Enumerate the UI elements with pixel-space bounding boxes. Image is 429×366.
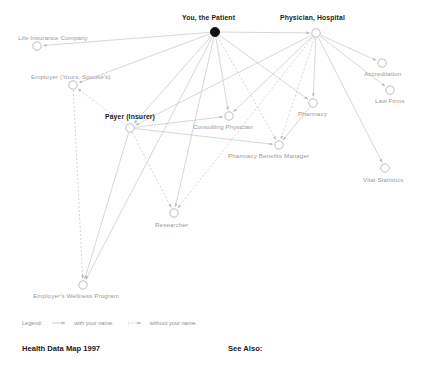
graph-node-accreditation[interactable] (378, 59, 386, 67)
graph-node-law-firms[interactable] (386, 86, 394, 94)
node-label-vital-statistics: Vital Statistics (363, 177, 403, 183)
graph-node-payer[interactable] (126, 124, 134, 132)
legend-solid-swatch (52, 320, 70, 326)
page-title: Health Data Map 1997 (22, 344, 100, 353)
nodes-group (33, 27, 394, 289)
node-label-pbm: Pharmacy Benefits Manager (228, 153, 309, 159)
node-label-employer: Employer (Yours, Spouse's) (31, 74, 111, 80)
graph-edge (318, 37, 382, 162)
graph-node-life-insurance[interactable] (33, 42, 41, 50)
node-label-researcher: Researcher (155, 222, 188, 228)
graph-edge (216, 37, 228, 110)
legend-dashed-text: without your name. (150, 320, 197, 326)
see-also-label: See Also: (228, 344, 262, 353)
graph-node-researcher[interactable] (170, 209, 178, 217)
legend-label: Legend: (22, 320, 42, 326)
graph-node-employer[interactable] (69, 81, 77, 89)
graph-node-consulting[interactable] (225, 112, 233, 120)
graph-node-patient[interactable] (210, 27, 219, 36)
graph-node-pbm[interactable] (275, 141, 283, 149)
graph-edge (234, 36, 313, 111)
legend-solid-text: with your name. (74, 320, 113, 326)
graph-edge (321, 35, 377, 60)
graph-edge (313, 38, 316, 97)
node-label-physician: Physician, Hospital (280, 15, 345, 22)
graph-edge (85, 133, 129, 279)
legend: Legend: with your name. without your nam… (22, 320, 211, 326)
graph-edge (320, 36, 385, 86)
node-label-accreditation: Accreditation (364, 71, 401, 77)
node-label-life-insurance: Life Insurance Company (18, 35, 88, 41)
edges-group (43, 32, 385, 279)
legend-dashed-swatch (128, 320, 146, 326)
graph-edge (135, 129, 273, 145)
graph-edge (132, 132, 171, 207)
graph-edge (220, 32, 310, 33)
node-label-payer: Payer (Insurer) (105, 114, 155, 121)
node-label-patient: You, the Patient (182, 15, 235, 22)
graph-node-vital-statistics[interactable] (381, 164, 389, 172)
graph-node-physician[interactable] (312, 29, 320, 37)
graph-edge (281, 38, 314, 139)
graph-edge (134, 36, 211, 123)
node-label-law-firms: Law Firms (375, 98, 405, 104)
health-data-map-diagram: You, the PatientPhysician, HospitalLife … (0, 0, 429, 366)
graph-node-pharmacy[interactable] (309, 99, 317, 107)
graph-edge (219, 35, 308, 99)
node-label-consulting: Consulting Physician (193, 124, 253, 130)
graph-edge (73, 90, 82, 279)
graph-node-wellness[interactable] (79, 281, 87, 289)
graph-edge (136, 35, 312, 125)
node-label-pharmacy: Pharmacy (298, 111, 327, 117)
node-label-wellness: Employer's Wellness Program (33, 293, 119, 299)
